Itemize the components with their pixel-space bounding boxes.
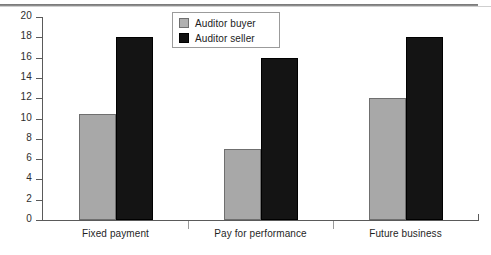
y-axis-tick: 10 (36, 119, 42, 120)
scan-artifact-rule-faint (0, 6, 491, 7)
y-axis-tick-label: 18 (20, 30, 32, 41)
bar (369, 98, 406, 220)
legend-swatch-icon-buyer (179, 18, 189, 28)
y-axis-tick: 4 (36, 179, 42, 180)
y-axis-tick-label: 2 (26, 193, 32, 204)
legend-label-buyer: Auditor buyer (195, 18, 256, 29)
category-label: Pay for performance (188, 228, 333, 239)
y-axis-tick: 16 (36, 58, 42, 59)
y-axis-tick-label: 4 (26, 172, 32, 183)
bar (406, 37, 443, 220)
y-axis-tick: 14 (36, 78, 42, 79)
y-axis-tick: 2 (36, 200, 42, 201)
bar (261, 58, 298, 220)
legend-item-auditor-buyer: Auditor buyer (179, 16, 256, 30)
y-axis-tick: 12 (36, 98, 42, 99)
chart-page: 02468101214161820 Fixed paymentPay for p… (0, 0, 491, 255)
y-axis-tick-label: 12 (20, 91, 32, 102)
category-label: Fixed payment (43, 228, 188, 239)
bar (79, 114, 116, 220)
x-axis-line (42, 220, 479, 221)
y-axis-tick-label: 8 (26, 132, 32, 143)
y-axis-tick-label: 20 (20, 10, 32, 21)
y-axis-tick: 20 (36, 17, 42, 18)
y-axis-tick: 0 (36, 220, 42, 221)
y-axis-tick-label: 16 (20, 51, 32, 62)
bar (224, 149, 261, 220)
category-label: Future business (333, 228, 478, 239)
y-axis-tick-label: 6 (26, 152, 32, 163)
chart-legend: Auditor buyer Auditor seller (172, 12, 280, 48)
y-axis-tick-label: 10 (20, 112, 32, 123)
bar (116, 37, 153, 220)
y-axis-tick: 18 (36, 37, 42, 38)
y-axis-tick-label: 0 (26, 213, 32, 224)
y-axis-tick: 6 (36, 159, 42, 160)
y-axis-tick: 8 (36, 139, 42, 140)
legend-label-seller: Auditor seller (195, 33, 255, 44)
y-axis-tick-label: 14 (20, 71, 32, 82)
legend-item-auditor-seller: Auditor seller (179, 31, 255, 45)
legend-swatch-icon-seller (179, 33, 189, 43)
